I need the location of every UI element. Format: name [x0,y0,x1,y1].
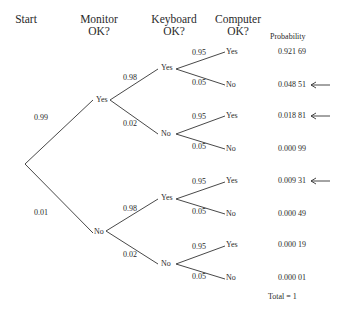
node-monitor-yes: Yes [96,95,108,104]
leaf-computer-yes-4: Yes [226,240,238,249]
outcome-prob-3: 0.018 81 [278,111,306,120]
prob-computer-yes-2: 0.95 [192,112,206,121]
leaf-computer-no-3: No [226,209,236,218]
prob-keyboard-yes-2: 0.98 [123,204,137,213]
left-arrow-icon [311,82,330,184]
prob-computer-no-4: 0.05 [192,272,206,281]
node-keyboard-yes-2: Yes [161,193,173,202]
node-keyboard-yes-1: Yes [161,63,173,72]
outcome-prob-8: 0.000 01 [278,273,306,282]
outcome-prob-5: 0.009 31 [278,176,306,185]
prob-computer-yes-4: 0.95 [192,242,206,251]
leaf-computer-yes-1: Yes [226,47,238,56]
prob-monitor-no: 0.01 [34,208,48,217]
outcome-prob-4: 0.000 99 [278,144,306,153]
prob-keyboard-no-1: 0.02 [123,119,137,128]
total-label: Total = 1 [268,292,297,301]
outcome-prob-6: 0.000 49 [278,209,306,218]
prob-computer-no-2: 0.05 [192,142,206,151]
leaf-computer-no-2: No [226,144,236,153]
leaf-computer-no-4: No [226,273,236,282]
leaf-computer-yes-3: Yes [226,176,238,185]
prob-computer-no-1: 0.05 [192,78,206,87]
prob-monitor-yes: 0.99 [34,113,48,122]
node-monitor-no: No [94,227,104,236]
node-keyboard-no-1: No [161,129,171,138]
prob-keyboard-yes-1: 0.98 [123,73,137,82]
outcome-prob-7: 0.000 19 [278,240,306,249]
prob-computer-no-3: 0.05 [192,207,206,216]
prob-computer-yes-1: 0.95 [192,48,206,57]
node-keyboard-no-2: No [161,259,171,268]
outcome-prob-1: 0.921 69 [278,47,306,56]
prob-keyboard-no-2: 0.02 [123,250,137,259]
outcome-prob-2: 0.048 51 [278,80,306,89]
leaf-computer-yes-2: Yes [226,111,238,120]
leaf-computer-no-1: No [226,80,236,89]
prob-computer-yes-3: 0.95 [192,177,206,186]
